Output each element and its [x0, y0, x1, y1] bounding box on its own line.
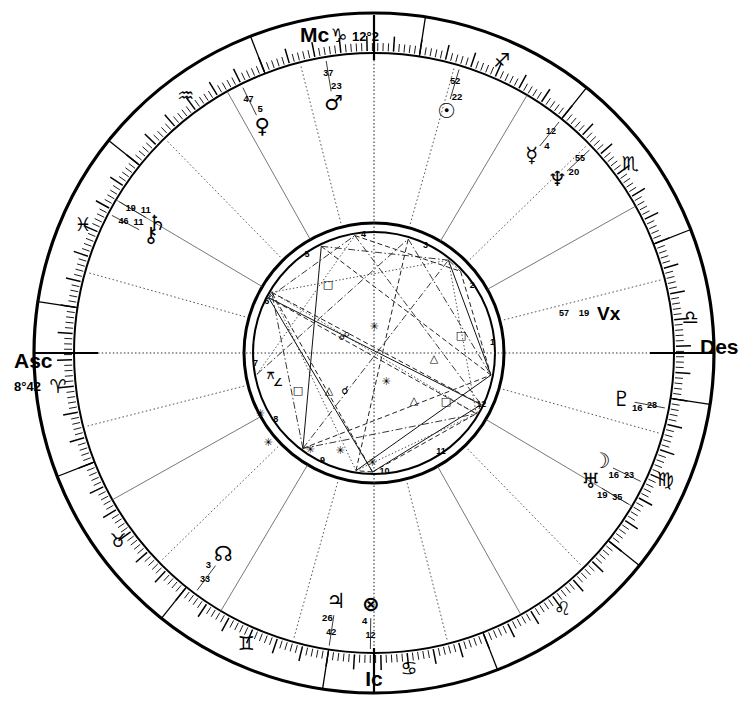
- zodiac-sign-sagittarius: ♐: [493, 49, 510, 71]
- degree-tick: [581, 573, 586, 579]
- degree-tick: [146, 143, 152, 148]
- degree-tick: [674, 314, 682, 315]
- mars-glyph: ♂: [324, 91, 343, 115]
- degree-tick: [96, 201, 109, 208]
- degree-tick: [68, 402, 76, 403]
- degree-tick: [469, 640, 472, 648]
- degree-tick: [138, 548, 144, 553]
- degree-tick: [659, 251, 667, 254]
- degree-tick: [297, 53, 299, 61]
- venus-minute: 47: [244, 94, 254, 104]
- vertex-minute: 57: [559, 308, 569, 318]
- degree-tick: [125, 168, 131, 173]
- natal-chart-wheel: ♈♉♊♋♌♍♎♏♐♑♒♓ 123456789101112 ⊗412♃2642☊3…: [0, 0, 749, 706]
- aspect-line: [356, 471, 373, 472]
- degree-tick: [642, 211, 649, 215]
- degree-tick: [524, 84, 528, 91]
- degree-tick: [322, 651, 323, 659]
- degree-tick: [189, 595, 194, 601]
- degree-tick: [623, 178, 630, 183]
- degree-tick: [127, 536, 133, 541]
- degree-tick: [665, 435, 673, 437]
- planet-north-node: ☊333: [197, 542, 233, 590]
- degree-tick: [198, 601, 203, 608]
- degree-tick: [174, 117, 179, 123]
- degree-tick: [77, 264, 85, 266]
- degree-tick: [227, 80, 231, 87]
- degree-tick: [664, 264, 678, 268]
- zodiac-sign-virgo: ♍: [657, 468, 674, 490]
- neptune-minute: 55: [575, 153, 585, 163]
- degree-tick: [79, 259, 87, 261]
- degree-tick: [94, 482, 101, 485]
- sign-division-line: [161, 587, 186, 618]
- moon-minute: 23: [624, 470, 634, 480]
- degree-tick: [157, 131, 163, 137]
- degree-tick: [671, 409, 679, 410]
- degree-tick: [440, 51, 442, 59]
- degree-tick: [594, 140, 600, 145]
- sign-division-line: [109, 140, 140, 165]
- degree-tick: [193, 598, 198, 605]
- degree-tick: [629, 187, 636, 191]
- degree-tick: [670, 291, 685, 294]
- degree-tick: [156, 568, 162, 574]
- degree-tick: [641, 493, 648, 497]
- degree-tick: [118, 523, 125, 528]
- degree-tick: [481, 63, 484, 70]
- degree-tick: [464, 641, 466, 649]
- degree-tick: [571, 118, 576, 124]
- degree-tick: [99, 492, 106, 496]
- degree-tick: [675, 372, 690, 373]
- zodiac-sign-libra: ♎: [682, 306, 699, 328]
- pluto-minute: 28: [647, 400, 657, 410]
- degree-tick: [329, 46, 330, 54]
- aspect-symbol-square: □: [456, 329, 466, 342]
- degree-tick: [222, 618, 229, 631]
- degree-tick: [456, 55, 458, 63]
- sign-division-line: [419, 17, 425, 57]
- degree-tick: [537, 92, 541, 99]
- degree-tick: [528, 86, 532, 93]
- degree-tick: [351, 44, 352, 52]
- house-number-11: 11: [436, 446, 446, 456]
- degree-tick: [575, 122, 580, 128]
- house-number-4: 4: [361, 229, 366, 239]
- degree-tick: [505, 74, 508, 81]
- degree-tick: [535, 608, 539, 615]
- aspect-symbol-sextile: ✳: [305, 443, 314, 456]
- planet-mercury: ☿412: [525, 122, 559, 167]
- degree-tick: [667, 276, 675, 278]
- mercury-minute: 12: [546, 126, 556, 136]
- degree-tick: [399, 44, 400, 52]
- degree-tick: [669, 419, 677, 421]
- degree-tick: [83, 458, 91, 461]
- degree-tick: [209, 82, 217, 95]
- degree-tick: [354, 654, 355, 669]
- house-cusp-dotted-line: [407, 483, 448, 642]
- degree-tick: [454, 644, 456, 652]
- chiron-degree: 11: [134, 216, 145, 227]
- planet-part-of-fortune: ⊗412: [362, 592, 380, 649]
- part-of-fortune-degree: 4: [362, 615, 368, 626]
- mc-label: Mc: [300, 23, 329, 46]
- degree-tick: [68, 301, 76, 302]
- saturn-degree: 11: [141, 204, 152, 215]
- house-cusp-dotted-line: [85, 386, 244, 427]
- degree-tick: [211, 610, 215, 617]
- degree-tick: [178, 113, 183, 119]
- degree-tick: [65, 328, 73, 329]
- aspect-symbol-trine: △: [325, 384, 334, 397]
- degree-tick: [397, 654, 398, 662]
- uranus-minute: 35: [612, 492, 622, 502]
- degree-tick: [172, 582, 177, 588]
- degree-tick: [660, 450, 674, 455]
- degree-tick: [216, 613, 220, 620]
- north-node-minute: 33: [200, 574, 210, 584]
- degree-tick: [438, 648, 440, 656]
- degree-tick: [425, 47, 426, 55]
- north-node-degree: 3: [206, 559, 211, 570]
- degree-tick: [97, 214, 104, 218]
- pluto-degree: 16: [632, 402, 643, 413]
- degree-tick: [550, 101, 555, 108]
